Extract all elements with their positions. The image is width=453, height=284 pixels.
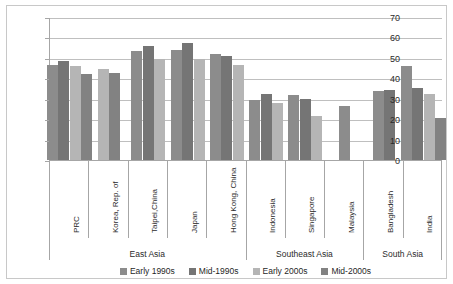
category-cell: [363, 161, 402, 238]
bar-group: [286, 18, 325, 160]
bar-group: [325, 18, 364, 160]
bar: [98, 69, 109, 160]
bar: [182, 43, 193, 160]
category-label: Malaysia: [347, 201, 356, 233]
bar: [194, 59, 205, 160]
y-tick-mark: [45, 18, 49, 19]
category-cell: [206, 161, 245, 238]
region-label: South Asia: [363, 249, 442, 259]
bar: [171, 50, 182, 160]
y-tick-mark: [45, 59, 49, 60]
legend-label: Early 1990s: [130, 266, 175, 276]
legend-swatch-icon: [189, 268, 196, 275]
category-axis-band: PRCKorea, Rep. ofTaipei,ChinaJapanHong K…: [49, 161, 442, 238]
bar: [210, 54, 221, 160]
legend-label: Early 2000s: [263, 266, 308, 276]
y-tick-mark: [45, 120, 49, 121]
bar: [58, 61, 69, 160]
bar: [249, 100, 260, 160]
category-label: Hong Kong, China: [229, 168, 238, 233]
y-tick-mark: [45, 161, 49, 162]
legend-swatch-icon: [120, 268, 127, 275]
chart-legend: Early 1990sMid-1990sEarly 2000sMid-2000s: [49, 264, 442, 278]
y-tick-label: 50: [376, 54, 400, 64]
legend-item[interactable]: Mid-2000s: [321, 266, 371, 276]
bar: [412, 88, 423, 160]
bar: [221, 56, 232, 160]
category-cell: [49, 161, 88, 238]
bar: [233, 65, 244, 160]
bar: [109, 73, 120, 160]
y-tick-label: 30: [376, 95, 400, 105]
bar: [131, 51, 142, 160]
category-cell: [167, 161, 206, 238]
y-tick-label: 0: [376, 156, 400, 166]
category-cell: [403, 161, 442, 238]
category-cell: [88, 161, 127, 238]
region-label: Southeast Asia: [246, 249, 364, 259]
bar-group: [89, 18, 128, 160]
bar-group: [207, 18, 246, 160]
y-tick-mark: [45, 38, 49, 39]
bar-group: [247, 18, 286, 160]
legend-swatch-icon: [253, 268, 260, 275]
bar: [311, 116, 322, 160]
legend-item[interactable]: Early 1990s: [120, 266, 175, 276]
category-label: India: [425, 216, 434, 233]
category-cell: [285, 161, 324, 238]
bar: [339, 106, 350, 160]
legend-label: Mid-1990s: [199, 266, 239, 276]
bar-group: [129, 18, 168, 160]
bar: [300, 99, 311, 160]
legend-item[interactable]: Early 2000s: [253, 266, 308, 276]
legend-label: Mid-2000s: [331, 266, 371, 276]
category-label: PRC: [72, 216, 81, 233]
y-tick-mark: [45, 79, 49, 80]
legend-swatch-icon: [321, 268, 328, 275]
bar: [401, 66, 412, 160]
y-tick-label: 20: [376, 115, 400, 125]
bar-group: [50, 18, 89, 160]
chart-outer-frame: % Share PRCKorea, Rep. ofTaipei,ChinaJap…: [6, 5, 447, 279]
category-cell: [324, 161, 363, 238]
bar: [261, 94, 272, 160]
y-tick-label: 60: [376, 33, 400, 43]
category-cell: [128, 161, 167, 238]
legend-item[interactable]: Mid-1990s: [189, 266, 239, 276]
bar: [424, 94, 435, 160]
chart-figure: % Share PRCKorea, Rep. ofTaipei,ChinaJap…: [0, 0, 453, 284]
y-tick-label: 10: [376, 136, 400, 146]
bar-group: [404, 18, 443, 160]
category-label: Taipei,China: [150, 189, 159, 233]
y-tick-label: 70: [376, 13, 400, 23]
bar: [70, 66, 81, 160]
y-tick-mark: [45, 141, 49, 142]
category-label: Japan: [190, 211, 199, 233]
category-cell: [246, 161, 285, 238]
y-tick-label: 40: [376, 74, 400, 84]
region-label: East Asia: [49, 249, 246, 259]
bar: [143, 46, 154, 160]
bar: [154, 59, 165, 160]
category-label: Indonesia: [268, 198, 277, 233]
category-label: Korea, Rep. of: [111, 181, 120, 233]
bar: [435, 118, 446, 160]
bar: [272, 103, 283, 160]
category-label: Singapore: [307, 197, 316, 233]
bar: [288, 95, 299, 160]
bar-group: [168, 18, 207, 160]
y-tick-mark: [45, 100, 49, 101]
category-label: Bangladesh: [386, 191, 395, 233]
region-axis-band: East AsiaSoutheast AsiaSouth Asia: [49, 238, 442, 260]
